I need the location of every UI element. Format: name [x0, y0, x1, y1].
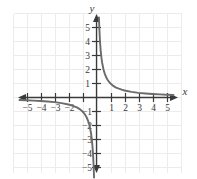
x-tick-label: 1	[109, 103, 114, 113]
x-axis-label: x	[182, 85, 188, 97]
y-tick-label: −4	[82, 149, 92, 159]
y-tick-label: 1	[85, 79, 90, 89]
x-tick-label: 5	[165, 103, 170, 113]
y-tick-label: −5	[82, 163, 92, 173]
x-tick-label: −3	[50, 103, 60, 113]
x-tick-label: 4	[151, 103, 156, 113]
y-tick-label: 2	[85, 65, 90, 75]
y-axis-label: y	[89, 2, 95, 14]
y-tick-label: 4	[85, 37, 90, 47]
x-tick-label: −4	[36, 103, 46, 113]
x-tick-label: −5	[22, 103, 32, 113]
y-tick-label: 5	[85, 23, 90, 33]
grid-lines	[14, 14, 182, 173]
x-tick-label: 2	[123, 103, 128, 113]
x-tick-label: 3	[137, 103, 142, 113]
coordinate-plane: −5 −4 −3 −2 1 2 3 4 5 5 4 3 2 1 −1 −2 −3…	[0, 0, 197, 179]
y-tick-label: 3	[85, 51, 90, 61]
graph-figure: −5 −4 −3 −2 1 2 3 4 5 5 4 3 2 1 −1 −2 −3…	[0, 0, 197, 179]
